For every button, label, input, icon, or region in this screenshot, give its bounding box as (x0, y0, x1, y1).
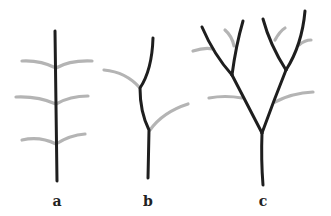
leaf-icon (209, 97, 242, 99)
panel-c-left-sub-inner (232, 21, 243, 75)
panel-a-stem (55, 31, 57, 181)
panel-b-stem (140, 38, 153, 178)
leaf-icon (193, 48, 213, 51)
leaf-icon (22, 61, 56, 68)
panel-c-trunk (262, 133, 263, 185)
panel-c-label: c (259, 193, 268, 209)
leaf-icon (56, 134, 85, 144)
panel-b-drawing (104, 38, 188, 178)
panel-a-drawing (16, 31, 92, 181)
leaf-icon (275, 28, 285, 40)
panel-c-drawing (193, 11, 313, 185)
leaf-icon (56, 61, 92, 68)
panel-a-leaves (16, 61, 92, 144)
leaf-icon (22, 139, 56, 144)
leaf-icon (150, 104, 188, 130)
panel-c-right-sub-inner (263, 19, 286, 70)
branching-diagram (0, 0, 331, 216)
panel-c-right-branch (262, 70, 286, 133)
leaf-icon (56, 96, 88, 104)
panel-c-leaves (193, 28, 313, 102)
panel-b-label: b (143, 193, 153, 209)
panel-c-left-branch (232, 75, 262, 133)
leaf-icon (275, 92, 313, 102)
panel-a-label: a (52, 193, 61, 209)
leaf-icon (16, 97, 56, 104)
panel-c-right-sub-outer (286, 11, 305, 70)
leaf-icon (225, 30, 234, 46)
leaf-icon (104, 70, 140, 88)
